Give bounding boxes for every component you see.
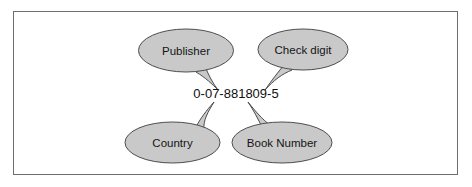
publisher-label: Publisher [162,45,210,57]
callout-publisher[interactable]: Publisher [139,29,234,90]
country-label: Country [152,137,193,149]
callout-check-digit[interactable]: Check digit [258,29,348,90]
callout-country[interactable]: Country [125,102,220,163]
isbn-number: 0-07-881809-5 [193,86,278,101]
callout-diagram: Publisher Check digit 0-07-881809-5 Coun… [0,0,472,187]
book-number-label: Book Number [247,137,317,149]
check-digit-label: Check digit [275,44,333,56]
callout-book-number[interactable]: Book Number [232,102,332,163]
isbn-callout-figure: Publisher Check digit 0-07-881809-5 Coun… [0,0,472,187]
